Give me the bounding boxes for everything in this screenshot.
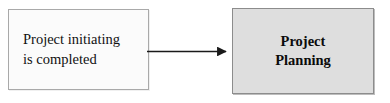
diagram-canvas: Project initiating is completed Project … (0, 0, 390, 103)
node-project-initiating-is-completed[interactable]: Project initiating is completed (8, 9, 149, 90)
node-phase-label: Project Planning (275, 32, 331, 71)
node-project-planning[interactable]: Project Planning (232, 8, 374, 94)
node-event-label: Project initiating is completed (9, 30, 120, 68)
connector-event-to-phase[interactable] (146, 40, 236, 64)
